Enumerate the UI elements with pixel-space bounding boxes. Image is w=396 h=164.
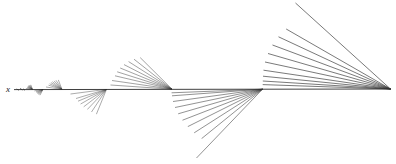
axis-line-group xyxy=(14,89,391,90)
figure-canvas: x xyxy=(0,0,396,164)
axis-label-x: x xyxy=(6,85,10,94)
geometric-fan-diagram xyxy=(0,0,396,164)
axis-baseline xyxy=(14,89,391,90)
figure-background xyxy=(0,0,396,164)
